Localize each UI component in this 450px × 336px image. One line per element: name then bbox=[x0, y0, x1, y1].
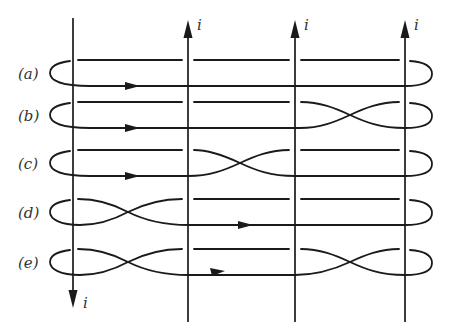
arrow-up-icon bbox=[184, 20, 193, 38]
arrow-right-icon bbox=[238, 221, 253, 229]
row-label-a: (a) bbox=[18, 65, 39, 83]
wire-1-label: i bbox=[83, 294, 88, 312]
arrow-right-icon bbox=[125, 82, 140, 90]
wire-2: i bbox=[184, 16, 203, 322]
row-label-e: (e) bbox=[18, 254, 39, 272]
loop-d bbox=[50, 199, 432, 229]
wire-3: i bbox=[291, 16, 310, 322]
arrow-down-icon bbox=[69, 290, 78, 308]
arrow-up-icon bbox=[401, 20, 410, 38]
wire-2-label: i bbox=[197, 16, 202, 34]
wire-3-label: i bbox=[304, 16, 309, 34]
row-label-c: (c) bbox=[18, 155, 38, 173]
arrow-right-icon bbox=[125, 172, 140, 180]
arrow-up-icon bbox=[291, 20, 300, 38]
row-label-d: (d) bbox=[18, 204, 39, 222]
row-label-b: (b) bbox=[18, 107, 39, 125]
loop-a bbox=[50, 60, 432, 90]
wire-4-label: i bbox=[414, 16, 419, 34]
loop-e bbox=[50, 249, 432, 276]
loop-diagram: (a) (b) (c) (d) (e) i bbox=[0, 0, 450, 336]
wire-1: i bbox=[69, 18, 89, 312]
loop-c bbox=[50, 150, 432, 180]
loop-b bbox=[50, 102, 432, 132]
arrow-right-icon bbox=[125, 124, 140, 132]
